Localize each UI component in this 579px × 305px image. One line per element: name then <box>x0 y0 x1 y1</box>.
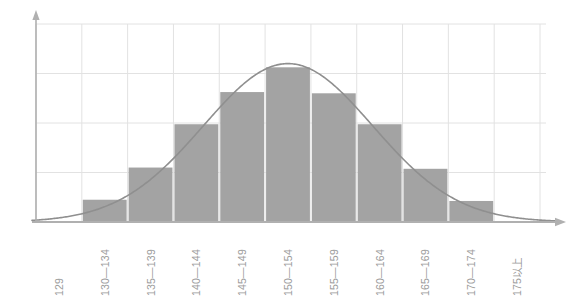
histogram-bar <box>312 93 356 222</box>
histogram-bar <box>358 124 402 222</box>
histogram-bar <box>266 67 310 222</box>
bars-group <box>83 67 493 222</box>
histogram-chart: 129130—134135—139140—144145—149150—15415… <box>0 0 579 305</box>
histogram-bar <box>404 169 448 222</box>
histogram-bar <box>129 168 173 222</box>
chart-canvas <box>0 0 579 305</box>
arrow-right-icon <box>555 218 566 226</box>
arrow-up-icon <box>32 10 39 20</box>
histogram-bar <box>174 124 218 222</box>
histogram-bar <box>83 200 127 222</box>
histogram-bar <box>220 92 264 222</box>
